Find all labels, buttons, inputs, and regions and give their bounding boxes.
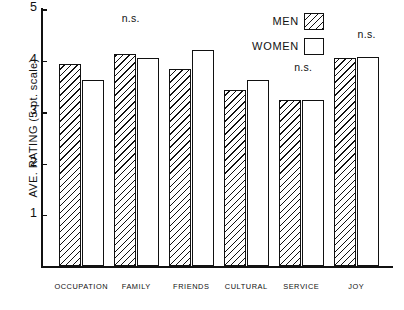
legend-swatch-hatched-square [304, 13, 324, 30]
legend-label-men: MEN [243, 15, 299, 27]
ns-annotation-service: n.s. [294, 61, 312, 73]
category-label-friends: FRIENDS [173, 282, 209, 291]
ns-annotation-family: n.s. [122, 12, 140, 24]
chart-legend: MENWOMEN [243, 11, 324, 61]
bar-service-women [302, 100, 324, 266]
bar-occupation-women [82, 80, 104, 267]
bar-friends-men [169, 69, 191, 266]
y-tick-mark [41, 61, 47, 62]
y-tick-mark [41, 112, 47, 113]
y-tick-label: 2 [30, 156, 37, 169]
category-label-occupation: OCCUPATION [54, 282, 108, 291]
category-label-service: SERVICE [283, 282, 319, 291]
legend-item-men: MEN [243, 11, 324, 31]
category-label-joy: JOY [348, 282, 364, 291]
bar-joy-men [334, 58, 356, 266]
category-label-cultural: CULTURAL [225, 282, 268, 291]
y-tick-mark [41, 9, 47, 10]
bar-chart-figure: AVE. RATING (5-pt. scale) 12345 n.s.n.s.… [0, 0, 404, 310]
y-tick-mark [41, 215, 47, 216]
bar-joy-women [357, 57, 379, 266]
x-axis-line [41, 266, 393, 268]
bar-cultural-women [247, 80, 269, 266]
bar-cultural-men [224, 90, 246, 266]
legend-item-women: WOMEN [243, 36, 324, 56]
bar-service-men [279, 100, 301, 266]
ns-annotation-joy: n.s. [358, 28, 376, 40]
bar-family-women [137, 58, 159, 267]
plot-area: 12345 n.s.n.s.n.s. OCCUPATIONFAMILYFRIEN… [41, 8, 393, 268]
y-tick-label: 1 [30, 207, 37, 220]
legend-swatch-empty-square [304, 38, 324, 55]
bar-friends-women [192, 50, 214, 267]
y-tick-label: 5 [30, 1, 37, 14]
y-tick-mark [41, 164, 47, 165]
y-tick-label: 3 [30, 104, 37, 117]
bar-occupation-men [59, 64, 81, 266]
category-label-family: FAMILY [122, 282, 151, 291]
bar-family-men [114, 54, 136, 267]
y-tick-label: 4 [30, 53, 37, 66]
y-axis-line [41, 8, 43, 268]
legend-label-women: WOMEN [243, 40, 299, 52]
